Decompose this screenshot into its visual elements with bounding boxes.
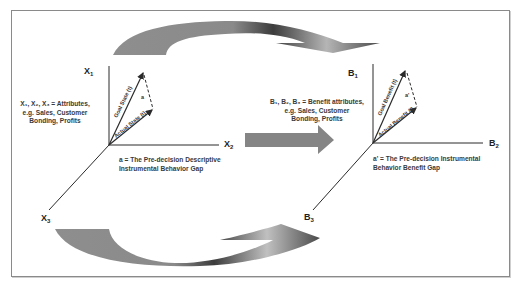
axis-label-b1: B1	[348, 68, 358, 79]
top-curved-arrow	[113, 21, 380, 55]
diagram-canvas: Goal State (t) Actual State (t) a Goal B…	[0, 0, 521, 285]
axis-label-x1: X1	[84, 66, 93, 77]
gap-a-prime-label: a'	[405, 92, 410, 98]
diagram-graphics: Goal State (t) Actual State (t) a Goal B…	[0, 0, 521, 285]
middle-straight-arrow	[245, 125, 334, 154]
right-gap-caption: a' = The Pre-decision Instrumental Behav…	[373, 155, 480, 172]
bottom-curved-arrow	[55, 224, 320, 266]
axis-label-b2: B2	[489, 138, 499, 149]
gap-a-label: a	[141, 94, 145, 100]
axis-label-x3: X3	[41, 213, 50, 224]
axis-label-x2: X2	[224, 139, 233, 150]
right-attributes-legend: B₁, B₂, B₃ = Benefit attributes, e.g. Sa…	[268, 98, 366, 124]
right-axes: Goal Benefit (t) Actual Benefit (t) a'	[313, 64, 483, 210]
left-attributes-legend: X₁, X₂, X₃ = Attributes, e.g. Sales, Cus…	[15, 100, 95, 126]
left-axes: Goal State (t) Actual State (t) a	[49, 66, 219, 210]
left-gap-caption: a = The Pre-decision Descriptive Instrum…	[119, 156, 221, 173]
axis-label-b3: B3	[304, 212, 314, 223]
